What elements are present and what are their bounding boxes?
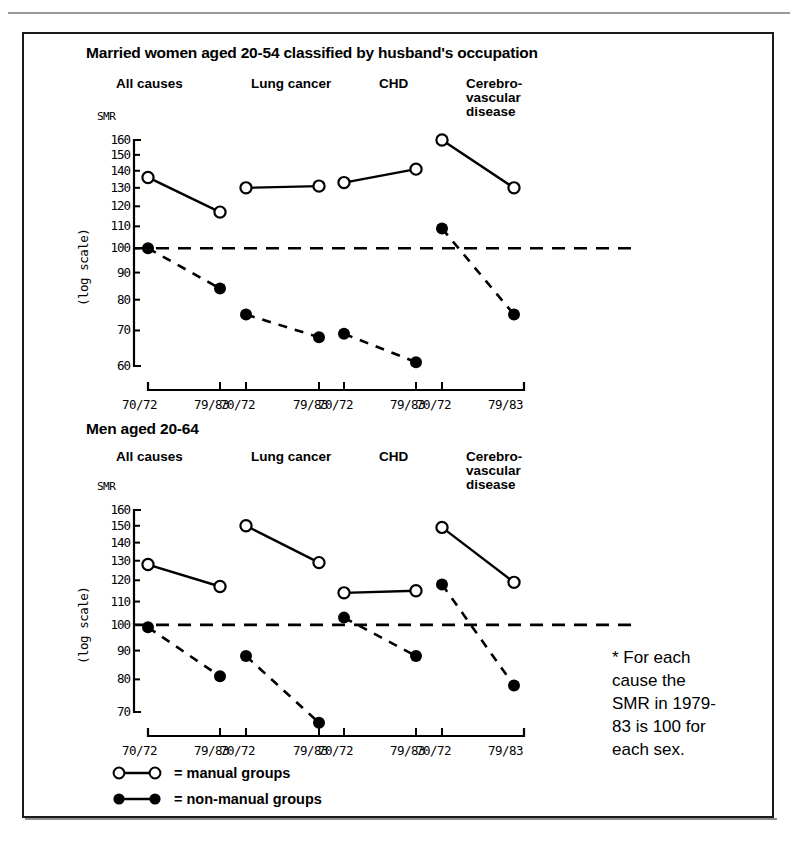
legend-label-non-manual: = non-manual groups: [174, 791, 322, 807]
y-tick-label: 80: [94, 292, 130, 307]
y-tick-label: 110: [94, 594, 130, 609]
plot-area-women: [24, 34, 772, 424]
y-tick-label: 100: [94, 240, 130, 255]
y-tick-label: 90: [94, 643, 130, 658]
y-tick-label: 80: [94, 671, 130, 686]
y-tick-label: 110: [94, 218, 130, 233]
y-tick-label: 90: [94, 265, 130, 280]
legend-label-manual: = manual groups: [174, 765, 290, 781]
x-tick-label: 70/72: [318, 743, 353, 758]
y-tick-label: 120: [94, 572, 130, 587]
y-tick-label: 150: [94, 147, 130, 162]
panel-married-women: Married women aged 20-54 classified by h…: [24, 34, 772, 424]
x-tick-label: 70/72: [220, 397, 255, 412]
legend-swatch-manual: [110, 764, 168, 782]
y-tick-label: 150: [94, 518, 130, 533]
x-tick-label: 70/72: [416, 397, 451, 412]
legend-item-manual: = manual groups: [110, 764, 290, 782]
x-tick-label: 79/83: [488, 397, 523, 412]
figure-frame: Married women aged 20-54 classified by h…: [22, 32, 774, 818]
y-tick-label: 160: [94, 502, 130, 517]
y-tick-label: 120: [94, 198, 130, 213]
y-tick-label: 130: [94, 180, 130, 195]
y-tick-label: 60: [94, 358, 130, 373]
x-tick-label: 70/72: [416, 743, 451, 758]
x-tick-label: 70/72: [318, 397, 353, 412]
y-tick-label: 160: [94, 132, 130, 147]
x-tick-label: 70/72: [122, 397, 157, 412]
legend-swatch-non-manual: [110, 790, 168, 808]
x-tick-label: 70/72: [220, 743, 255, 758]
legend-item-non-manual: = non-manual groups: [110, 790, 322, 808]
y-tick-label: 70: [94, 704, 130, 719]
y-tick-label: 100: [94, 617, 130, 632]
frame-bottom-shadow: [25, 818, 777, 820]
y-tick-label: 130: [94, 553, 130, 568]
y-tick-label: 140: [94, 535, 130, 550]
x-tick-label: 79/83: [488, 743, 523, 758]
x-tick-label: 70/72: [122, 743, 157, 758]
y-tick-label: 140: [94, 163, 130, 178]
page-top-rule: [8, 12, 790, 14]
footnote-text: * For each cause the SMR in 1979- 83 is …: [612, 646, 762, 761]
y-tick-label: 70: [94, 322, 130, 337]
